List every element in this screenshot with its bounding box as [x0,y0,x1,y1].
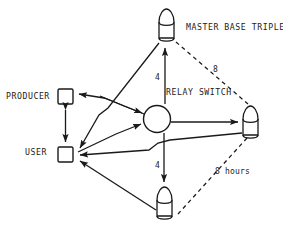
diagram-graphics [0,0,283,228]
node-base-bottom [157,187,172,219]
edge-base-right-to-user [80,133,242,155]
label-relay-switch: RELAY SWITCH [166,88,232,96]
diagram-canvas: MASTER BASE TRIPLET RELAY SWITCH PRODUCE… [0,0,283,228]
label-user: USER [25,148,47,156]
label-edge-top-to-right-value: 8 [213,66,218,74]
label-edge-relay-to-top-value: 4 [155,74,160,82]
edge-producer-to-relay [100,96,142,113]
node-user-square [58,147,73,162]
edge-base-bottom-to-user [80,161,156,210]
node-producer-square [58,89,73,104]
edge-dashed-right-to-bottom [178,138,247,214]
node-base-top [159,9,174,41]
label-edge-right-to-bottom-value: 8 hours [215,168,250,176]
label-producer: PRODUCER [6,92,50,100]
node-base-right [243,106,258,138]
label-master-base-triplet: MASTER BASE TRIPLET [186,23,283,31]
node-relay-switch [144,106,171,133]
label-edge-relay-to-bottom-value: 4 [155,162,160,170]
edge-user-to-relay-upper [78,124,141,152]
